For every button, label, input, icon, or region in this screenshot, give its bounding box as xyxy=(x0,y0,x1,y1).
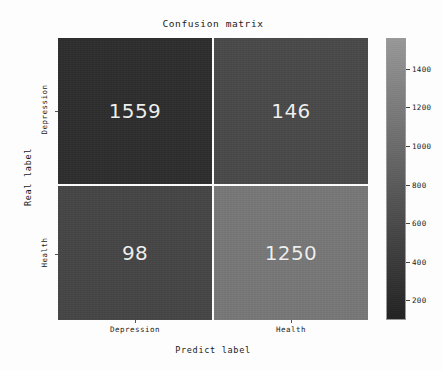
cell-value: 1559 xyxy=(109,99,162,123)
matrix-cell-depression-depression[interactable]: 1559 xyxy=(58,38,212,184)
colorbar-tick-label: 1200 xyxy=(412,103,431,112)
cell-value: 98 xyxy=(122,241,148,265)
colorbar-tick-label: 1400 xyxy=(412,64,431,73)
colorbar-tick-mark xyxy=(406,146,410,147)
yaxis-tick-label-depression: Depression xyxy=(40,55,49,165)
xaxis-tick-label-depression: Depression xyxy=(65,325,205,334)
xaxis-title: Predict label xyxy=(58,345,368,355)
xaxis-tick-label-health: Health xyxy=(221,325,361,334)
colorbar-tick-label: 400 xyxy=(412,257,426,266)
yaxis-tick-mark xyxy=(55,254,58,255)
matrix-cell-health-health[interactable]: 1250 xyxy=(214,186,368,320)
yaxis-tick-mark xyxy=(55,111,58,112)
xaxis-tick-mark xyxy=(135,320,136,323)
colorbar-gradient xyxy=(387,39,405,319)
colorbar-tick-mark xyxy=(406,262,410,263)
matrix-cell-depression-health[interactable]: 146 xyxy=(214,38,368,184)
confusion-matrix-figure: Confusion matrix 1559 146 98 1250 Depres… xyxy=(0,0,443,370)
colorbar-tick-label: 200 xyxy=(412,296,426,305)
matrix-cell-health-depression[interactable]: 98 xyxy=(58,186,212,320)
colorbar-tick-label: 600 xyxy=(412,219,426,228)
cell-value: 146 xyxy=(271,99,310,123)
colorbar-tick-label: 1000 xyxy=(412,141,431,150)
colorbar-tick-mark xyxy=(406,185,410,186)
colorbar-tick-mark xyxy=(406,300,410,301)
heatmap-plot-area: 1559 146 98 1250 xyxy=(58,38,368,320)
yaxis-title: Real label xyxy=(23,87,33,267)
colorbar-tick-label: 800 xyxy=(412,180,426,189)
colorbar-tick-mark xyxy=(406,69,410,70)
colorbar[interactable] xyxy=(386,38,406,320)
cell-value: 1250 xyxy=(265,241,318,265)
yaxis-tick-label-health: Health xyxy=(40,198,49,308)
xaxis-tick-mark xyxy=(291,320,292,323)
page-title: Confusion matrix xyxy=(58,18,368,29)
colorbar-tick-mark xyxy=(406,107,410,108)
colorbar-tick-mark xyxy=(406,223,410,224)
